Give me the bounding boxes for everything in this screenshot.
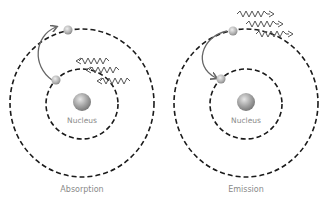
- nucleus-label: Nucleus: [231, 116, 261, 125]
- caption-absorption: Absorption: [60, 185, 103, 194]
- photon-wave-icon: [246, 21, 279, 27]
- arrowhead-icon: [86, 67, 91, 73]
- nucleus-label: Nucleus: [67, 116, 97, 125]
- caption-emission: Emission: [228, 185, 264, 194]
- photon-wave-icon: [256, 31, 289, 37]
- photon-wave-icon: [89, 67, 119, 73]
- photon-wave-icon: [100, 78, 130, 84]
- electron-inner: [52, 76, 61, 85]
- electron-inner: [217, 75, 226, 84]
- photon-wave-icon: [237, 11, 270, 17]
- electron-outer: [64, 26, 73, 35]
- outgoing-photons: [237, 11, 293, 37]
- electron-outer: [229, 27, 238, 36]
- arrowhead-icon: [97, 78, 102, 84]
- incoming-photons: [76, 58, 132, 84]
- nucleus: [73, 93, 91, 111]
- absorption-diagram: Nucleus Absorption: [10, 26, 154, 195]
- nucleus: [237, 93, 255, 111]
- electron-drop-arrow: [202, 31, 227, 78]
- emission-diagram: Nucleus Emission: [174, 11, 318, 194]
- atom-diagram-canvas: Nucleus Absorption Nucleus: [0, 0, 328, 203]
